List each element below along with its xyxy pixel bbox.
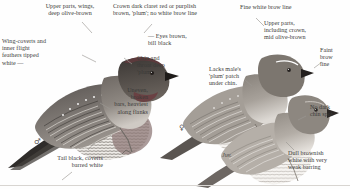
annotation-faint-brow-line: Faint brow line (320, 47, 348, 69)
annotation-wing-coverts: Wing-coverts and inner flight feathers t… (2, 38, 80, 67)
juvenile-caption: Juv. (222, 152, 231, 158)
bottom-rule (0, 185, 350, 186)
male-symbol: ♂ (34, 138, 41, 146)
annotation-crown-dark-claret: Crown dark claret red or purplish brown,… (113, 3, 237, 17)
annotation-eyes-brown-bill-black: — Eyes brown, bill black (148, 33, 216, 47)
annotation-upper-parts-including-crown: Upper parts, including crown, mid olive-… (264, 20, 344, 42)
annotation-dull-brownish-white: Dull brownish white with very weak barri… (288, 150, 350, 172)
bird-identification-plate: Upper parts, wings, deep olive-brown Win… (0, 0, 350, 189)
annotation-lacks-plum-patch: Lacks male's 'plum' patch under chin. (209, 66, 273, 88)
annotation-chin-throat-plum: Chin and throat deep 'plum' (137, 55, 193, 77)
female-symbol: ♀ (179, 124, 185, 132)
annotation-uneven-broken-bars: Uneven, broken bars, heaviest along flan… (82, 87, 148, 116)
annotation-upper-parts-wings: Upper parts, wings, deep olive-brown (22, 3, 118, 17)
annotation-no-dark-chin-spot: No dark chin spot (310, 104, 350, 118)
annotation-fine-white-brow-line: Fine white brow line (240, 4, 340, 11)
annotation-tail-black-coverts: Tail black, coverts barred white (20, 155, 103, 169)
